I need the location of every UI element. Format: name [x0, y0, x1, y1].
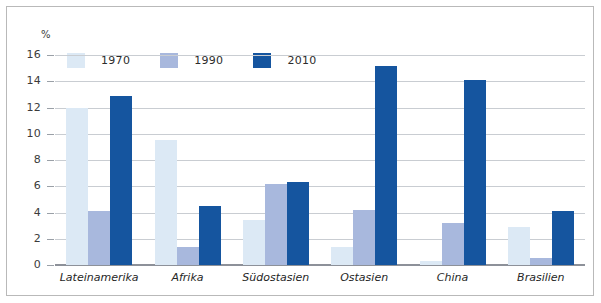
gridline-16 [55, 55, 585, 56]
y-tick-mark-2 [47, 239, 54, 240]
y-tick-mark-10 [47, 134, 54, 135]
gridline-12 [55, 108, 585, 109]
bar-brasilien-1990[interactable] [530, 258, 552, 265]
y-tick-label-10: 10 [7, 127, 41, 140]
bar-china-1970[interactable] [420, 261, 442, 265]
y-tick-mark-14 [47, 81, 54, 82]
y-tick-mark-6 [47, 186, 54, 187]
y-tick-mark-16 [47, 55, 54, 56]
y-tick-label-6: 6 [7, 179, 41, 192]
y-tick-mark-0 [47, 265, 54, 266]
y-tick-label-16: 16 [7, 48, 41, 61]
bar-südostasien-1990[interactable] [265, 184, 287, 265]
chart-frame: % 1970 1990 2010 0246810121416Lateinamer… [6, 6, 594, 296]
bar-brasilien-2010[interactable] [552, 211, 574, 265]
bar-afrika-1990[interactable] [177, 247, 199, 265]
gridline-8 [55, 160, 585, 161]
y-tick-label-12: 12 [7, 101, 41, 114]
bar-südostasien-2010[interactable] [287, 182, 309, 265]
chart-figure: % 1970 1990 2010 0246810121416Lateinamer… [0, 0, 601, 303]
bar-ostasien-1970[interactable] [331, 247, 353, 265]
y-tick-label-2: 2 [7, 232, 41, 245]
y-tick-label-0: 0 [7, 258, 41, 271]
x-category-label-china: China [437, 271, 468, 284]
x-category-label-lateinamerika: Lateinamerika [60, 271, 139, 284]
bar-südostasien-1970[interactable] [243, 220, 265, 265]
x-category-label-brasilien: Brasilien [517, 271, 564, 284]
x-category-label-südostasien: Südostasien [242, 271, 309, 284]
bar-afrika-2010[interactable] [199, 206, 221, 265]
bar-ostasien-1990[interactable] [353, 210, 375, 265]
y-tick-label-8: 8 [7, 153, 41, 166]
gridline-14 [55, 81, 585, 82]
y-tick-label-4: 4 [7, 206, 41, 219]
bar-lateinamerika-1990[interactable] [88, 211, 110, 265]
bar-afrika-1970[interactable] [155, 140, 177, 265]
bar-china-2010[interactable] [464, 80, 486, 265]
bar-china-1990[interactable] [442, 223, 464, 265]
bar-brasilien-1970[interactable] [508, 227, 530, 265]
gridline-0 [55, 264, 585, 266]
y-tick-mark-4 [47, 213, 54, 214]
bar-lateinamerika-1970[interactable] [66, 108, 88, 266]
bar-lateinamerika-2010[interactable] [110, 96, 132, 265]
gridline-2 [55, 239, 585, 240]
gridline-4 [55, 213, 585, 214]
plot-area: 0246810121416LateinamerikaAfrikaSüdostas… [55, 55, 585, 265]
x-category-label-afrika: Afrika [171, 271, 203, 284]
y-tick-mark-8 [47, 160, 54, 161]
gridline-6 [55, 186, 585, 187]
y-tick-mark-12 [47, 108, 54, 109]
y-tick-label-14: 14 [7, 74, 41, 87]
bar-ostasien-2010[interactable] [375, 66, 397, 266]
y-axis-unit-label: % [41, 29, 51, 40]
x-category-label-ostasien: Ostasien [340, 271, 388, 284]
gridline-10 [55, 134, 585, 135]
